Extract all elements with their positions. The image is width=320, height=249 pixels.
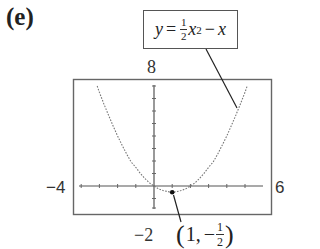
xmax-label: 6: [275, 178, 284, 198]
equation-coefficient-fraction: 1 2: [180, 17, 187, 42]
vertex-y-fraction: 1 2: [216, 221, 224, 248]
equation-tail: x: [218, 19, 226, 40]
fraction-denominator: 2: [181, 31, 187, 42]
vertex-x: 1,: [186, 223, 201, 246]
vertex-point: [170, 190, 175, 195]
vertex-pointer-line: [174, 195, 182, 222]
equation-minus: −: [205, 19, 215, 40]
equation-callout: y = 1 2 x2 − x: [143, 10, 238, 49]
vertex-label: ( 1, − 1 2 ): [176, 221, 234, 248]
equation-pointer-line: [206, 49, 237, 108]
parabola-curve: [97, 86, 247, 192]
vertex-open-paren: (: [176, 222, 185, 248]
equation-exponent: 2: [196, 24, 202, 36]
fraction-numerator: 1: [217, 221, 223, 233]
equation-equals: =: [166, 19, 176, 40]
xmin-label: −4: [46, 178, 65, 198]
fraction-denominator: 2: [217, 236, 223, 248]
equation-variable: x: [188, 19, 196, 40]
vertex-sign: −: [204, 223, 215, 246]
fraction-numerator: 1: [181, 17, 187, 28]
equation-lhs: y: [155, 19, 163, 40]
ymin-label: −2: [134, 225, 153, 246]
ymax-label: 8: [147, 57, 156, 78]
vertex-close-paren: ): [225, 222, 234, 248]
